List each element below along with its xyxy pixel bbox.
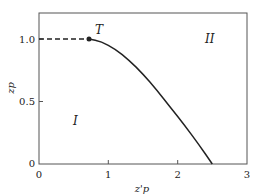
plot-frame — [39, 13, 247, 164]
point-t-marker — [87, 37, 92, 42]
x-tick-label-0: 0 — [36, 169, 42, 180]
y-tick-label-0: 0 — [29, 158, 35, 169]
label-t: T — [95, 23, 104, 37]
y-ticks — [39, 39, 43, 102]
x-ticks — [108, 160, 177, 164]
boundary-curve — [89, 39, 212, 164]
region-label-i: I — [72, 114, 78, 128]
y-axis-label: zp — [5, 82, 16, 95]
x-axis-label: z'p — [134, 183, 150, 194]
x-tick-label-3: 3 — [244, 169, 250, 180]
x-tick-label-2: 2 — [175, 169, 181, 180]
chart: 0 1 2 3 0 0.5 1.0 z'p zp T I II — [0, 0, 257, 196]
y-tick-label-1-0: 1.0 — [19, 34, 35, 45]
x-tick-label-1: 1 — [105, 169, 111, 180]
region-label-ii: II — [204, 32, 215, 46]
y-tick-label-0-5: 0.5 — [19, 96, 35, 107]
